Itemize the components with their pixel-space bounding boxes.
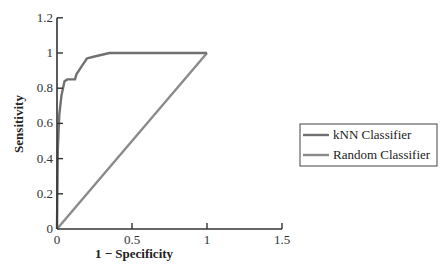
x-tick-label: 0	[54, 232, 61, 247]
y-tick-label: 0.4	[37, 151, 54, 166]
y-tick-label: 1.2	[37, 10, 53, 25]
legend-label: Random Classifier	[333, 147, 431, 162]
x-tick-label: 1.5	[274, 232, 290, 247]
x-tick-label: 1	[204, 232, 211, 247]
legend-label: kNN Classifier	[333, 127, 412, 142]
plot-area	[57, 53, 207, 229]
y-tick-label: 0	[47, 221, 54, 236]
y-tick-label: 0.2	[37, 186, 53, 201]
x-axis-title: 1 − Specificity	[95, 246, 174, 261]
y-axis-title: Sensitivity	[11, 95, 26, 153]
y-tick-label: 0.6	[37, 115, 54, 130]
axes: 00.20.40.60.811.200.511.5	[37, 10, 290, 247]
y-tick-label: 0.8	[37, 80, 53, 95]
y-tick-label: 1	[47, 45, 54, 60]
x-tick-label: 0.5	[124, 232, 140, 247]
roc-chart: 00.20.40.60.811.200.511.5 1 − Specificit…	[0, 0, 445, 272]
legend: kNN ClassifierRandom Classifier	[300, 124, 437, 166]
series-line-random-classifier	[57, 53, 207, 229]
